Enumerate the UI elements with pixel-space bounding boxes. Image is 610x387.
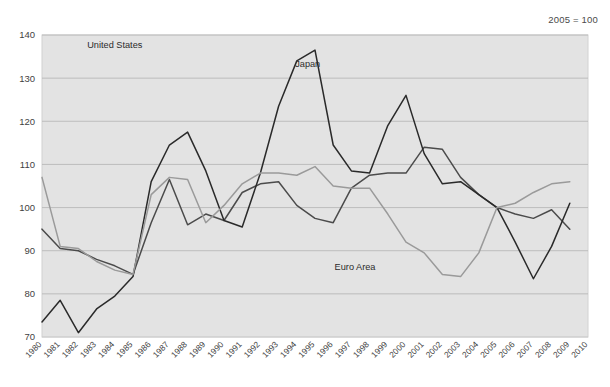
x-tick-label: 1998 — [351, 339, 371, 359]
x-tick-label: 1990 — [205, 339, 225, 359]
x-tick-label: 2007 — [515, 339, 535, 359]
series-label-united-states: United States — [87, 40, 143, 50]
x-tick-label: 2000 — [387, 339, 407, 359]
x-tick-label: 1983 — [78, 339, 98, 359]
x-tick-label: 1993 — [260, 339, 280, 359]
series-label-euro-area: Euro Area — [335, 262, 377, 272]
index-base-note: 2005 = 100 — [548, 14, 598, 25]
x-tick-label: 2006 — [496, 339, 516, 359]
x-tick-label: 1992 — [242, 339, 262, 359]
x-axis-tick-labels: 1980198119821983198419851986198719881989… — [23, 339, 589, 359]
x-tick-label: 1988 — [169, 339, 189, 359]
x-tick-label: 2001 — [405, 339, 425, 359]
y-tick-label: 120 — [19, 116, 35, 127]
x-tick-label: 1991 — [223, 339, 243, 359]
x-tick-label: 1997 — [333, 339, 353, 359]
x-tick-label: 2010 — [569, 339, 589, 359]
x-tick-label: 2004 — [460, 339, 480, 359]
x-tick-label: 2008 — [533, 339, 553, 359]
y-tick-label: 70 — [24, 331, 35, 342]
y-tick-label: 100 — [19, 202, 35, 213]
x-tick-label: 1987 — [151, 339, 171, 359]
y-axis-tick-labels: 708090100110120130140 — [19, 29, 35, 342]
y-tick-label: 90 — [24, 245, 35, 256]
y-tick-label: 140 — [19, 29, 35, 40]
x-tick-label: 1989 — [187, 339, 207, 359]
x-tick-label: 1985 — [114, 339, 134, 359]
x-tick-label: 1995 — [296, 339, 316, 359]
x-tick-label: 1996 — [314, 339, 334, 359]
x-tick-label: 2005 — [478, 339, 498, 359]
chart-container: 2005 = 100 708090100110120130140 1980198… — [0, 0, 610, 387]
series-label-japan: Japan — [295, 59, 320, 69]
x-tick-label: 1999 — [369, 339, 389, 359]
line-chart: 708090100110120130140 198019811982198319… — [0, 0, 610, 387]
x-tick-label: 1984 — [96, 339, 116, 359]
x-tick-label: 1994 — [278, 339, 298, 359]
x-tick-label: 2002 — [424, 339, 444, 359]
y-tick-label: 80 — [24, 288, 35, 299]
y-tick-label: 110 — [20, 159, 35, 170]
x-tick-label: 2009 — [551, 339, 571, 359]
y-tick-label: 130 — [19, 73, 35, 84]
x-tick-label: 2003 — [442, 339, 462, 359]
x-tick-label: 1981 — [41, 339, 61, 359]
plot-background — [42, 35, 588, 337]
x-tick-label: 1982 — [60, 339, 80, 359]
x-tick-label: 1986 — [132, 339, 152, 359]
